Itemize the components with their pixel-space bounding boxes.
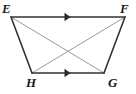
parallel-arrow-marker-ef-icon: [65, 13, 71, 21]
diagonal-eg: [11, 17, 104, 73]
edge-fg: [104, 17, 125, 73]
parallel-arrow-marker-hg-icon: [65, 69, 71, 77]
vertex-label-h: H: [26, 76, 36, 89]
vertex-label-g: G: [108, 76, 117, 89]
geometry-figure-trapezoid-efgh: E F G H: [0, 0, 136, 94]
vertex-label-f: F: [120, 2, 129, 15]
vertex-label-e: E: [2, 2, 11, 15]
diagonal-fh: [32, 17, 125, 73]
edge-eh: [11, 17, 32, 73]
